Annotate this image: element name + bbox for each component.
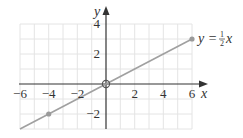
- chart-canvas: −6 −4 −2 2 4 6 4 2 −2 x y y = 1 2 x: [0, 0, 243, 138]
- equation-label: y = 1 2 x: [196, 30, 233, 48]
- x-axis-label: x: [200, 86, 208, 101]
- y-tick-2: 2: [94, 46, 101, 61]
- y-tick-neg2: −2: [86, 106, 100, 121]
- x-tick-4: 4: [160, 86, 167, 101]
- y-axis-arrow-icon: [103, 6, 110, 15]
- x-tick-neg2: −2: [70, 86, 84, 101]
- axes: [19, 12, 202, 129]
- svg-text:y =: y =: [196, 31, 217, 46]
- x-tick-neg4: −4: [42, 86, 56, 101]
- point-neg4-neg2: [46, 111, 51, 116]
- point-6-3: [189, 36, 194, 41]
- svg-text:x: x: [225, 31, 233, 46]
- x-tick-2: 2: [131, 86, 138, 101]
- y-axis-label: y: [92, 4, 101, 19]
- svg-text:1: 1: [220, 30, 224, 39]
- x-tick-6: 6: [189, 86, 196, 101]
- x-tick-neg6: −6: [13, 86, 27, 101]
- svg-text:2: 2: [220, 39, 224, 48]
